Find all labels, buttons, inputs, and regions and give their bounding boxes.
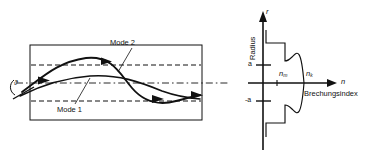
label-index-core: nk: [306, 70, 313, 78]
label-mode-1: Mode 1: [57, 106, 82, 114]
label-index-cladding-subscript: m: [283, 72, 287, 78]
label-mode-2: Mode 2: [110, 39, 135, 47]
label-entry-angle: ϑ: [14, 79, 18, 86]
entry-ray-stub: [13, 87, 34, 99]
tick-label-minus-a: -a: [245, 96, 251, 103]
figure-optical-fiber-modes-and-index-profile: Mode 2 Mode 1 ϑ r Radius n Brechungsinde…: [0, 0, 379, 162]
label-index-core-subscript: k: [310, 72, 313, 78]
label-n-axis: n: [341, 78, 345, 86]
n-axis-arrowhead: [327, 79, 337, 87]
figure-canvas: [0, 0, 379, 162]
label-brechungsindex: Brechungsindex: [304, 90, 358, 98]
tick-label-a: a: [248, 60, 252, 67]
label-index-cladding: nm: [279, 70, 287, 78]
label-r-axis: r: [266, 8, 269, 16]
label-radius-axis-name: Radius: [249, 37, 257, 60]
ray-mode-1: [20, 76, 200, 99]
leader-line-mode-2: [118, 48, 132, 72]
leader-line-mode-1: [75, 78, 90, 104]
